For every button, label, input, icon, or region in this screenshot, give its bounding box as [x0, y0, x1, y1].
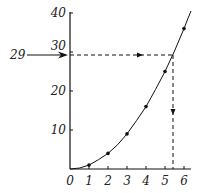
- annotation-label-29: 29: [9, 48, 26, 62]
- y-tick-20: 20: [50, 84, 67, 98]
- x-tick-2: 2: [103, 174, 112, 188]
- x-tick-5: 5: [161, 174, 169, 188]
- x-tick-1: 1: [85, 174, 93, 188]
- y-tick-40: 40: [50, 6, 67, 20]
- x-tick-0: 0: [66, 174, 74, 188]
- x-tick-3: 3: [123, 174, 131, 188]
- chart: 40 30 20 10 0 1 2 3 4 5 6 29: [0, 0, 207, 193]
- x-tick-6: 6: [180, 174, 188, 188]
- y-tick-10: 10: [51, 123, 67, 137]
- data-markers: [87, 27, 186, 167]
- x-tick-4: 4: [141, 174, 150, 188]
- y-tick-30: 30: [51, 39, 67, 53]
